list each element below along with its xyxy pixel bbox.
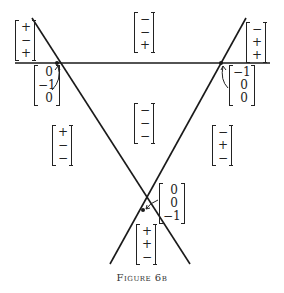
vector-entry: + xyxy=(138,39,150,52)
right-region: −+− xyxy=(212,125,232,166)
top-right-region: −++ xyxy=(246,22,266,63)
left-region: +−− xyxy=(52,125,72,166)
vector-entry: + xyxy=(250,49,262,62)
center-region: −−− xyxy=(134,103,154,144)
right-intersection-dot xyxy=(219,61,223,65)
right-vertex-vector: −100 xyxy=(229,65,255,106)
vector-entry: + xyxy=(19,47,31,60)
vector-entry: − xyxy=(56,152,68,165)
vector-entry: − xyxy=(140,251,152,264)
vector-entry: −1 xyxy=(163,210,181,223)
bottom-vertex-vector: 00−1 xyxy=(159,183,185,224)
vector-entry: 0 xyxy=(41,92,53,105)
figure-caption: Figure 6b xyxy=(0,272,284,283)
right-vertex-arrowhead xyxy=(221,66,226,70)
left-vertex-vector: 0−10 xyxy=(34,65,60,106)
vector-entry: − xyxy=(138,130,150,143)
top-center-region: −−+ xyxy=(134,12,154,53)
figure-6b: +−+−−+−+++−−−−−−+−++−0−10−10000−1 Figure… xyxy=(0,0,284,293)
vector-entry: − xyxy=(216,152,228,165)
vector-entry: 0 xyxy=(236,92,248,105)
bottom-intersection-dot xyxy=(141,208,145,212)
bottom-region: ++− xyxy=(136,224,156,265)
top-left-region: +−+ xyxy=(15,20,35,61)
